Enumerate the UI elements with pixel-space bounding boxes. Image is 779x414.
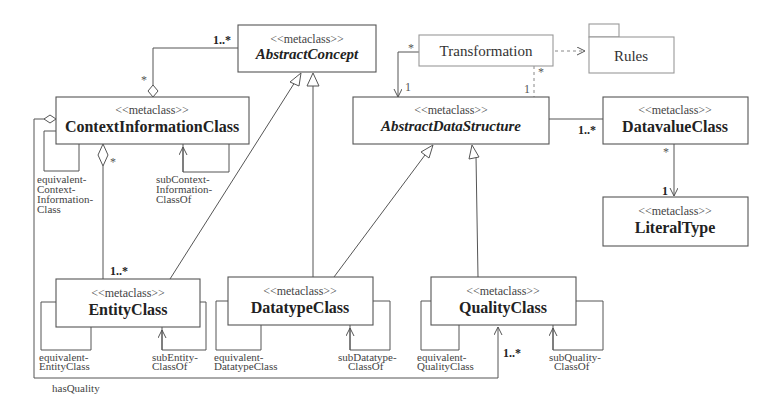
- class-entity[interactable]: <<metaclass>> EntityClass: [56, 279, 200, 327]
- role-label-sub-entity: subEntity- ClassOf: [152, 351, 198, 372]
- multiplicity-label: 1: [524, 82, 530, 96]
- multiplicity-label: *: [141, 73, 147, 87]
- multiplicity-label: *: [110, 155, 116, 169]
- class-name: LiteralType: [635, 219, 716, 237]
- generalization-arrow-icon: [469, 145, 479, 159]
- self-association-sub-cic: [183, 144, 229, 172]
- association-ads-datavalue: 1..*: [549, 119, 603, 137]
- class-name: AbstractDataStructure: [380, 118, 521, 134]
- role-label-sub-datatype: subDatatype- ClassOf: [338, 351, 397, 372]
- svg-text:QualityClass: QualityClass: [417, 360, 474, 372]
- multiplicity-label: *: [538, 65, 544, 79]
- association-datavalue-literal: * 1: [662, 144, 674, 198]
- stereotype-label: <<metaclass>>: [414, 103, 488, 117]
- class-datatype[interactable]: <<metaclass>> DatatypeClass: [228, 277, 373, 325]
- package-name: Rules: [614, 48, 648, 64]
- multiplicity-label: 1: [405, 80, 411, 94]
- generalization-quality-ads: [469, 145, 479, 277]
- association-cic-abstractconcept: 1..* *: [141, 33, 238, 97]
- aggregation-diamond-icon: [148, 85, 158, 97]
- generalization-datatype-abstractconcept: [307, 73, 319, 277]
- class-name: Transformation: [440, 43, 533, 59]
- multiplicity-label: 1..*: [503, 346, 521, 360]
- class-datavalue[interactable]: <<metaclass>> DatavalueClass: [603, 97, 748, 144]
- svg-text:DatatypeClass: DatatypeClass: [214, 360, 278, 372]
- class-name: EntityClass: [88, 301, 167, 319]
- stereotype-label: <<metaclass>>: [91, 286, 165, 300]
- role-label-sub-cic: subContext- Information- ClassOf: [156, 173, 213, 205]
- class-abstract-concept[interactable]: <<metaclass>> AbstractConcept: [238, 25, 376, 72]
- multiplicity-label: *: [408, 41, 414, 55]
- svg-text:ClassOf: ClassOf: [156, 193, 192, 205]
- svg-text:ClassOf: ClassOf: [554, 360, 590, 372]
- multiplicity-label: 1..*: [213, 33, 231, 47]
- multiplicity-label: 1: [662, 184, 668, 198]
- stereotype-label: <<metaclass>>: [263, 284, 337, 298]
- uml-diagram-canvas: 1..* * * 1..* hasQuality 1..* * 1 *: [0, 0, 779, 414]
- generalization-arrow-icon: [307, 73, 319, 86]
- role-label-equivalent-datatype: equivalent- DatatypeClass: [214, 351, 278, 372]
- generalization-arrow-icon: [421, 145, 433, 158]
- class-name: DatatypeClass: [251, 299, 350, 317]
- multiplicity-label: *: [663, 145, 669, 159]
- aggregation-diamond-icon: [44, 115, 56, 123]
- role-label-has-quality: hasQuality: [52, 382, 100, 394]
- svg-text:ClassOf: ClassOf: [152, 360, 188, 372]
- class-name: DatavalueClass: [622, 118, 728, 135]
- class-quality[interactable]: <<metaclass>> QualityClass: [431, 277, 576, 325]
- package-rules[interactable]: Rules: [589, 24, 674, 73]
- multiplicity-label: 1..*: [578, 123, 596, 137]
- generalization-arrow-icon: [290, 73, 301, 86]
- class-context-information[interactable]: <<metaclass>> ContextInformationClass: [56, 97, 249, 144]
- role-label-equivalent-quality: equivalent- QualityClass: [417, 351, 474, 372]
- stereotype-label: <<metaclass>>: [270, 32, 344, 46]
- generalization-datatype-ads: [334, 145, 433, 277]
- multiplicity-label: 1..*: [110, 264, 128, 278]
- class-abstract-data-structure[interactable]: <<metaclass>> AbstractDataStructure: [353, 97, 549, 144]
- class-literal-type[interactable]: <<metaclass>> LiteralType: [603, 197, 748, 246]
- svg-text:ClassOf: ClassOf: [348, 360, 384, 372]
- role-label-equivalent-entity: equivalent- EntityClass: [39, 351, 90, 372]
- role-label-equivalent-cic: equivalent- Context- Information- Class: [37, 173, 94, 215]
- aggregation-diamond-icon: [98, 144, 108, 166]
- stereotype-label: <<metaclass>>: [115, 103, 189, 117]
- role-label-sub-quality: subQuality- ClassOf: [549, 351, 601, 372]
- class-name: AbstractConcept: [255, 46, 359, 62]
- stereotype-label: <<metaclass>>: [638, 204, 712, 218]
- svg-text:Class: Class: [37, 203, 61, 215]
- stereotype-label: <<metaclass>>: [466, 284, 540, 298]
- association-cic-entity: * 1..*: [98, 144, 128, 279]
- stereotype-label: <<metaclass>>: [638, 103, 712, 117]
- class-name: ContextInformationClass: [65, 118, 239, 135]
- class-name: QualityClass: [459, 299, 547, 317]
- class-transformation[interactable]: Transformation: [419, 35, 553, 66]
- svg-text:EntityClass: EntityClass: [39, 360, 90, 372]
